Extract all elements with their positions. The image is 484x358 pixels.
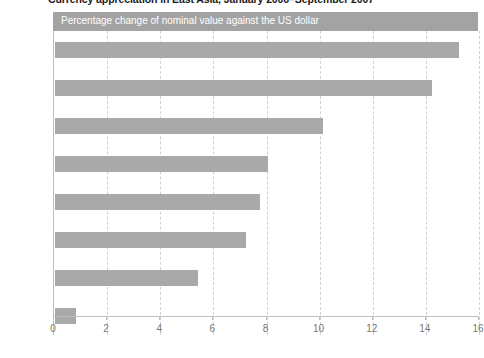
x-axis-tick (425, 316, 426, 320)
bar (55, 194, 260, 210)
bar (55, 118, 323, 134)
chart-subtitle-text: Percentage change of nominal value again… (61, 15, 319, 26)
x-axis-tick-label: 12 (366, 323, 377, 334)
chart-subtitle-banner: Percentage change of nominal value again… (53, 12, 478, 31)
bar-row (54, 151, 479, 177)
x-axis-tick (212, 316, 213, 320)
bar (55, 80, 432, 96)
bar (55, 270, 198, 286)
x-axis-tick (106, 316, 107, 320)
x-axis-tick-label: 8 (263, 323, 269, 334)
bar-row (54, 265, 479, 291)
bar (55, 156, 268, 172)
x-axis-tick-label: 6 (210, 323, 216, 334)
x-axis-tick-label: 14 (419, 323, 430, 334)
x-axis-tick (478, 316, 479, 320)
figure-title: Currency appreciation in East Asia, Janu… (48, 0, 468, 5)
x-axis-tick-label: 2 (103, 323, 109, 334)
x-axis-tick (266, 316, 267, 320)
x-axis-tick (372, 316, 373, 320)
bar (55, 232, 246, 248)
x-axis-tick (53, 316, 54, 320)
x-axis-tick (319, 316, 320, 320)
bar-row (54, 75, 479, 101)
bar-row (54, 227, 479, 253)
bar-row (54, 189, 479, 215)
bar-row (54, 113, 479, 139)
bar-row (54, 37, 479, 63)
x-axis-tick-label: 16 (472, 323, 483, 334)
x-axis-tick-label: 0 (50, 323, 56, 334)
gridline (479, 31, 481, 335)
x-axis-tick (159, 316, 160, 320)
x-axis-tick-label: 10 (313, 323, 324, 334)
plot-area (53, 31, 478, 335)
bar (55, 42, 459, 58)
x-axis-tick-label: 4 (156, 323, 162, 334)
bar-chart: Percentage change of nominal value again… (53, 12, 478, 335)
